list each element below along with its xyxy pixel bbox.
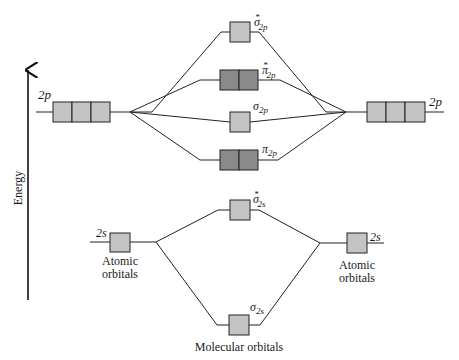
left-2p-orbitals: 2p	[38, 87, 110, 122]
svg-text:σ2s: σ2s	[250, 300, 264, 316]
mo-sigma-star-2s: σ*2s	[230, 189, 266, 220]
right-caption-line2: orbitals	[339, 271, 375, 285]
molecular-caption: Molecular orbitals	[195, 340, 284, 354]
right-caption-line1: Atomic	[339, 258, 375, 272]
mo-diagram: Energy	[0, 0, 459, 360]
left-caption-line2: orbitals	[102, 267, 138, 281]
svg-text:σ*2s: σ*2s	[253, 189, 266, 209]
left-caption-line1: Atomic	[102, 254, 138, 268]
mo-pi-2p: π2p	[220, 142, 278, 170]
correlation-lines-2p	[36, 32, 444, 160]
right-2s-orbital: 2s Atomic orbitals	[339, 230, 381, 285]
right-2s-label: 2s	[370, 230, 381, 244]
mo-pi-star-2p: π*2p	[220, 60, 276, 90]
svg-text:π*2p: π*2p	[262, 60, 276, 80]
svg-text:π2p: π2p	[262, 142, 278, 158]
mo-sigma-star-2p: σ*2p	[230, 12, 268, 42]
mo-sigma-2s: σ2s	[229, 300, 264, 335]
energy-label: Energy	[11, 171, 25, 205]
svg-text:σ2p: σ2p	[253, 99, 268, 115]
right-2p-orbitals: 2p	[367, 94, 443, 122]
left-2p-label: 2p	[38, 87, 52, 102]
left-2s-label: 2s	[96, 226, 107, 240]
energy-axis: Energy	[11, 70, 28, 300]
left-2s-orbital: 2s Atomic orbitals	[96, 226, 138, 281]
mo-sigma-2p: σ2p	[230, 99, 268, 132]
svg-text:σ*2p: σ*2p	[254, 12, 268, 32]
right-2p-label: 2p	[429, 94, 443, 109]
